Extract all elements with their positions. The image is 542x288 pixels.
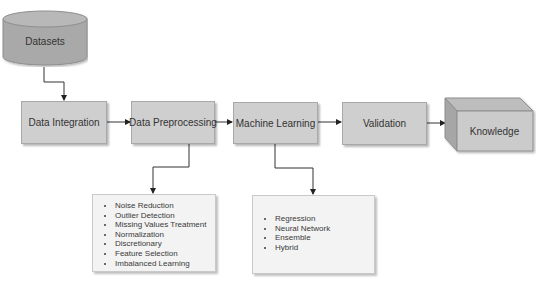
preprocessing-details-box: Noise Reduction Outlier Detection Missin… xyxy=(92,194,216,272)
node-data-preprocessing[interactable]: Data Preprocessing xyxy=(131,101,215,144)
knowledge-label: Knowledge xyxy=(457,111,532,151)
ml-details-box: Regression Neural Network Ensemble Hybri… xyxy=(252,195,375,274)
list-item: Feature Selection xyxy=(115,249,215,259)
node-validation[interactable]: Validation xyxy=(342,102,427,145)
list-item: Hybrid xyxy=(275,243,374,253)
edge-preprocessing-details xyxy=(153,144,189,193)
list-item: Missing Values Treatment xyxy=(115,220,215,230)
list-item: Imbalanced Learning xyxy=(115,259,215,269)
node-validation-label: Validation xyxy=(363,118,406,129)
datasets-label: Datasets xyxy=(2,26,88,56)
node-machine-learning[interactable]: Machine Learning xyxy=(233,102,318,144)
list-item: Discretionary xyxy=(115,239,215,249)
list-item: Noise Reduction xyxy=(115,201,215,211)
list-item: Normalization xyxy=(115,230,215,240)
node-data-preprocessing-label: Data Preprocessing xyxy=(129,117,217,128)
preprocessing-details-list: Noise Reduction Outlier Detection Missin… xyxy=(93,201,215,268)
list-item: Neural Network xyxy=(275,224,374,234)
ml-details-list: Regression Neural Network Ensemble Hybri… xyxy=(253,214,374,252)
list-item: Ensemble xyxy=(275,233,374,243)
list-item: Outlier Detection xyxy=(115,211,215,221)
node-data-integration[interactable]: Data Integration xyxy=(21,101,107,144)
node-data-integration-label: Data Integration xyxy=(28,117,99,128)
diagram-canvas: Datasets Data Integration Data Preproces… xyxy=(0,0,542,288)
edge-ml-details xyxy=(275,144,313,194)
list-item: Regression xyxy=(275,214,374,224)
edge-datasets-integration xyxy=(44,67,64,100)
node-machine-learning-label: Machine Learning xyxy=(236,118,316,129)
